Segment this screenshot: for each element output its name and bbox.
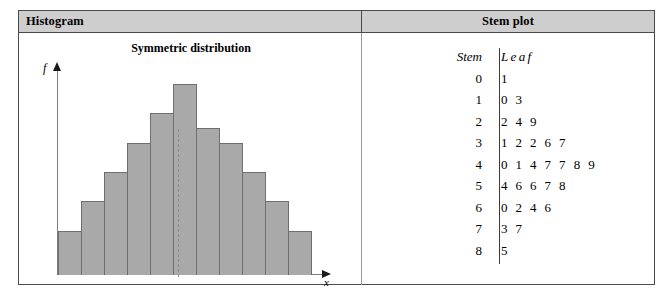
leaf-values: 0 3 xyxy=(491,89,597,111)
stemplot-area: Stem Leaf 0110 322 4 931 2 2 6 740 1 4 7… xyxy=(362,46,655,276)
histogram-bar xyxy=(104,172,128,275)
leaf-values: 4 6 6 7 8 xyxy=(491,175,597,197)
header-cell-histogram: Histogram xyxy=(19,11,362,32)
stem-leaf-divider xyxy=(499,48,500,264)
stem-value: 3 xyxy=(420,132,491,154)
stem-value: 1 xyxy=(420,89,491,111)
histogram-bar xyxy=(150,113,174,275)
histogram-bar xyxy=(196,128,220,275)
histogram-bar xyxy=(81,201,105,275)
stemplot-panel: Stem Leaf 0110 322 4 931 2 2 6 740 1 4 7… xyxy=(362,33,654,285)
histogram-bars xyxy=(58,69,322,275)
table-body-row: Symmetric distribution f x xyxy=(19,33,654,285)
table-header-row: Histogram Stem plot xyxy=(19,11,654,33)
leaf-values: 0 1 4 7 7 8 9 xyxy=(491,154,597,176)
stemplot-header-label: Stem plot xyxy=(482,14,534,29)
comparison-table: Histogram Stem plot Symmetric distributi… xyxy=(18,10,655,285)
stem-leaf-row: 22 4 9 xyxy=(420,111,597,133)
y-axis-label: f xyxy=(43,61,46,76)
leaf-values: 2 4 9 xyxy=(491,111,597,133)
histogram-bar xyxy=(265,201,289,275)
stem-leaf-row: 10 3 xyxy=(420,89,597,111)
stem-leaf-row: 01 xyxy=(420,68,597,90)
histogram-bar xyxy=(288,231,312,275)
stem-leaf-row: 73 7 xyxy=(420,218,597,240)
leaf-values: 0 2 4 6 xyxy=(491,197,597,219)
histogram-bar xyxy=(58,231,82,275)
leaf-column-header: Leaf xyxy=(491,46,597,68)
header-cell-stemplot: Stem plot xyxy=(362,11,654,32)
stem-value: 0 xyxy=(420,68,491,90)
histogram-bar xyxy=(219,143,243,275)
stem-leaf-row: 85 xyxy=(420,240,597,262)
stem-leaf-row: 60 2 4 6 xyxy=(420,197,597,219)
histogram-header-label: Histogram xyxy=(26,14,84,29)
stem-leaf-header-row: Stem Leaf xyxy=(420,46,597,68)
stem-leaf-row: 54 6 6 7 8 xyxy=(420,175,597,197)
stem-value: 6 xyxy=(420,197,491,219)
histogram-bar xyxy=(173,84,197,275)
histogram-bar xyxy=(242,172,266,275)
histogram-panel: Symmetric distribution f x xyxy=(19,33,362,285)
leaf-values: 3 7 xyxy=(491,218,597,240)
stem-leaf-table: Stem Leaf 0110 322 4 931 2 2 6 740 1 4 7… xyxy=(420,46,597,261)
x-axis-label: x xyxy=(324,276,329,288)
leaf-values: 1 2 2 6 7 xyxy=(491,132,597,154)
stem-value: 2 xyxy=(420,111,491,133)
histogram-plot-area: f x xyxy=(19,33,363,285)
leaf-values: 1 xyxy=(491,68,597,90)
figure-container: Histogram Stem plot Symmetric distributi… xyxy=(0,0,669,297)
leaf-values: 5 xyxy=(491,240,597,262)
symmetry-center-line xyxy=(178,129,179,277)
histogram-bar xyxy=(127,143,151,275)
stem-value: 4 xyxy=(420,154,491,176)
stem-leaf-row: 40 1 4 7 7 8 9 xyxy=(420,154,597,176)
stem-column-header: Stem xyxy=(420,46,491,68)
stem-value: 7 xyxy=(420,218,491,240)
stem-value: 5 xyxy=(420,175,491,197)
stem-leaf-row: 31 2 2 6 7 xyxy=(420,132,597,154)
stem-value: 8 xyxy=(420,240,491,262)
